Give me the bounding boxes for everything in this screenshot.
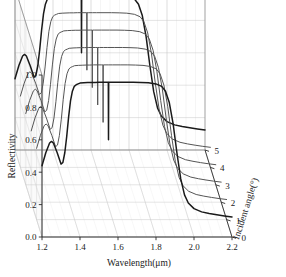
y-tick-label-0.2: 0.2 <box>25 200 36 210</box>
x-tick-label-1.8: 1.8 <box>150 242 162 252</box>
z-axis-title: Incident angle(°) <box>231 176 261 241</box>
y-tick-label-0.6: 0.6 <box>25 135 37 145</box>
x-tick-label-2.2: 2.2 <box>226 242 237 252</box>
y-axis-title: Reflectivity <box>7 133 17 178</box>
x-tick-label-2.0: 2.0 <box>188 242 200 252</box>
y-tick-label-0.0: 0.0 <box>25 232 37 242</box>
reflectivity-3d-waterfall-chart: 1.21.41.61.82.02.20.00.20.40.60.81.00123… <box>0 0 286 277</box>
chart-svg: 1.21.41.61.82.02.20.00.20.40.60.81.00123… <box>0 0 286 277</box>
z-tick-label-5: 5 <box>215 146 220 156</box>
x-tick-label-1.4: 1.4 <box>74 242 86 252</box>
z-tick-label-4: 4 <box>220 163 225 173</box>
chart-walls <box>15 0 232 237</box>
z-tick-label-2: 2 <box>231 198 236 208</box>
x-tick-label-1.2: 1.2 <box>36 242 47 252</box>
y-tick-label-0.4: 0.4 <box>25 168 37 178</box>
y-tick-label-1.0: 1.0 <box>25 70 37 80</box>
y-tick-label-0.8: 0.8 <box>25 103 37 113</box>
x-tick-label-1.6: 1.6 <box>112 242 124 252</box>
x-axis-title: Wavelength(μm) <box>107 258 171 269</box>
z-tick-label-3: 3 <box>225 181 230 191</box>
